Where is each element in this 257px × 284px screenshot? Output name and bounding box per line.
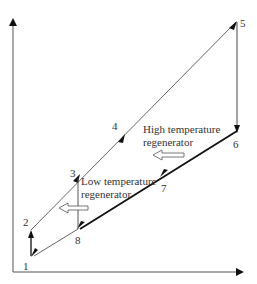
- x-axis-arrow-icon: [236, 268, 244, 276]
- point-label-2: 2: [23, 216, 29, 228]
- arrow-4-icon: [118, 134, 125, 143]
- arrow-5-icon: [229, 21, 237, 30]
- cycle-diagram: 1 2 3 4 5 6 7 8 High temperature regener…: [0, 0, 257, 284]
- arrow-1-2-icon: [28, 230, 34, 238]
- annotations: High temperature regenerator Low tempera…: [81, 123, 220, 200]
- axes: [9, 18, 244, 276]
- point-label-3: 3: [70, 167, 76, 179]
- point-label-8: 8: [75, 234, 81, 246]
- point-label-1: 1: [23, 260, 29, 272]
- high-regen-label-line1: High temperature: [143, 123, 220, 135]
- low-regen-label-line1: Low temperature: [81, 175, 157, 187]
- point-label-6: 6: [233, 138, 239, 150]
- process-8-1: [34, 229, 78, 256]
- high-regen-hollow-arrow-icon: [153, 150, 184, 160]
- process-lines: [28, 21, 240, 257]
- high-regen-label-line2: regenerator: [143, 136, 193, 148]
- point-labels: 1 2 3 4 5 6 7 8: [23, 17, 246, 272]
- point-label-5: 5: [240, 17, 246, 29]
- point-label-4: 4: [112, 120, 118, 132]
- low-regen-label-line2: regenerator: [81, 188, 131, 200]
- low-regen-hollow-arrow-icon: [59, 203, 88, 213]
- y-axis-arrow-icon: [9, 18, 17, 26]
- point-label-7: 7: [161, 182, 167, 194]
